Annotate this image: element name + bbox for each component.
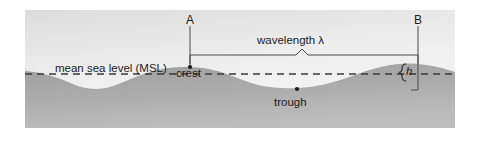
trough-label: trough [274, 97, 307, 109]
wavelength-label: wavelength λ [257, 35, 324, 47]
point-b-label: B [414, 14, 422, 26]
wave-height-label: h [406, 66, 412, 78]
trough-point-marker [295, 87, 299, 91]
point-a-label: A [186, 14, 194, 26]
wave-diagram-panel: mean sea level (MSL) crest trough wavele… [25, 10, 455, 128]
diagram-canvas: mean sea level (MSL) crest trough wavele… [0, 0, 478, 141]
crest-label: crest [176, 68, 201, 80]
mean-sea-level-label: mean sea level (MSL) [55, 63, 167, 75]
